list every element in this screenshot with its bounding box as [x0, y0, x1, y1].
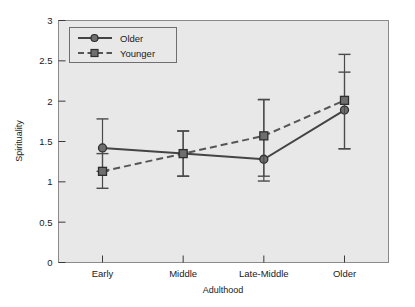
legend: OlderYounger [70, 28, 177, 63]
x-tick-label: Late-Middle [239, 268, 289, 279]
y-tick-label: 3 [47, 15, 52, 26]
y-tick-label: 0.5 [39, 217, 52, 228]
y-tick-label: 2 [47, 96, 52, 107]
line-chart: 00.511.522.53 EarlyMiddleLate-MiddleOlde… [0, 0, 415, 307]
data-point-marker [341, 96, 349, 104]
legend-label: Younger [120, 48, 155, 59]
y-axis-label: Spirituality [14, 120, 24, 162]
y-tick-label: 2.5 [39, 55, 52, 66]
data-point-marker [99, 167, 107, 175]
x-axis-tick-labels: EarlyMiddleLate-MiddleOlder [92, 268, 356, 279]
figure: 00.511.522.53 EarlyMiddleLate-MiddleOlde… [0, 0, 415, 307]
y-tick-label: 1.5 [39, 136, 52, 147]
x-axis-label: Adulthood [203, 285, 244, 295]
legend-label: Older [120, 33, 143, 44]
y-axis-tick-labels: 00.511.522.53 [39, 15, 52, 268]
x-tick-label: Early [92, 268, 114, 279]
x-tick-label: Middle [169, 268, 197, 279]
legend-marker [91, 35, 98, 42]
data-point-marker [260, 132, 268, 140]
y-tick-label: 0 [47, 257, 52, 268]
data-point-marker [99, 144, 107, 152]
legend-marker [91, 50, 98, 57]
data-point-marker [179, 150, 187, 158]
y-tick-label: 1 [47, 176, 52, 187]
x-tick-label: Older [333, 268, 356, 279]
